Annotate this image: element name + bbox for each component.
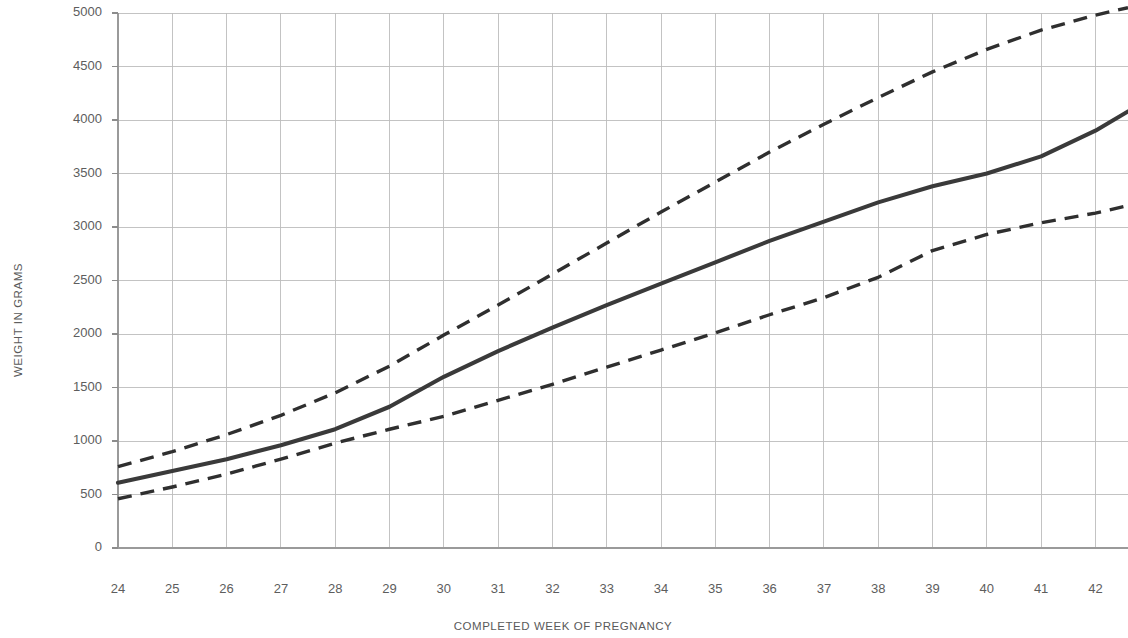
x-tick-label: 29 [382, 581, 396, 596]
x-tick-label: 32 [545, 581, 559, 596]
y-tick-label: 500 [80, 486, 102, 501]
y-tick-label: 2500 [73, 272, 102, 287]
x-tick-label: 35 [708, 581, 722, 596]
y-tick-label: 0 [95, 539, 102, 554]
y-tick-label: 2000 [73, 325, 102, 340]
chart-canvas: 0500100015002000250030003500400045005000… [0, 0, 1128, 638]
series-dashed-2 [118, 206, 1128, 499]
y-tick-label: 4000 [73, 111, 102, 126]
x-tick-label: 34 [654, 581, 668, 596]
x-tick-label: 38 [871, 581, 885, 596]
x-tick-label: 36 [762, 581, 776, 596]
x-tick-label: 41 [1034, 581, 1048, 596]
x-tick-label: 30 [437, 581, 451, 596]
y-tick-label: 3000 [73, 218, 102, 233]
y-tick-label: 5000 [73, 4, 102, 19]
x-tick-label: 27 [274, 581, 288, 596]
y-tick-label: 4500 [73, 58, 102, 73]
x-tick-label: 37 [817, 581, 831, 596]
x-tick-label: 40 [980, 581, 994, 596]
x-tick-label: 24 [111, 581, 125, 596]
x-tick-label: 33 [599, 581, 613, 596]
y-tick-label: 1500 [73, 379, 102, 394]
x-tick-label: 31 [491, 581, 505, 596]
x-tick-label: 28 [328, 581, 342, 596]
x-tick-label: 26 [219, 581, 233, 596]
gridlines-horizontal [118, 13, 1128, 548]
fetal-growth-chart: 0500100015002000250030003500400045005000… [0, 0, 1128, 638]
y-tick-label: 3500 [73, 165, 102, 180]
x-tick-label: 42 [1088, 581, 1102, 596]
y-axis-title: WEIGHT IN GRAMS [12, 263, 24, 377]
y-axis [112, 13, 118, 548]
y-tick-label: 1000 [73, 432, 102, 447]
x-tick-labels: 24252627282930313233343536373839404142 [111, 581, 1103, 596]
data-series [118, 8, 1128, 499]
y-tick-labels: 0500100015002000250030003500400045005000 [73, 4, 102, 554]
x-tick-label: 25 [165, 581, 179, 596]
x-tick-label: 39 [925, 581, 939, 596]
series-solid-1 [118, 111, 1128, 482]
x-axis-title: COMPLETED WEEK OF PREGNANCY [454, 620, 673, 632]
